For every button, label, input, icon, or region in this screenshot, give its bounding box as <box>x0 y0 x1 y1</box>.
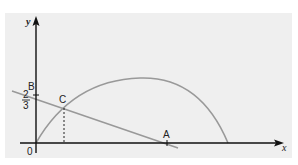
x-axis-label: x <box>281 142 287 153</box>
fraction-numerator: 2 <box>23 89 29 100</box>
point-b-label: B <box>28 81 35 92</box>
fraction-denominator: 3 <box>23 100 29 111</box>
point-c-label: C <box>59 94 66 105</box>
origin-label: 0 <box>27 146 33 157</box>
point-a-label: A <box>163 129 170 140</box>
graph: y x 0 B 2 3 C A <box>0 0 298 165</box>
parabola-curve <box>36 78 228 143</box>
straight-line <box>12 91 178 148</box>
y-axis-label: y <box>25 16 31 27</box>
